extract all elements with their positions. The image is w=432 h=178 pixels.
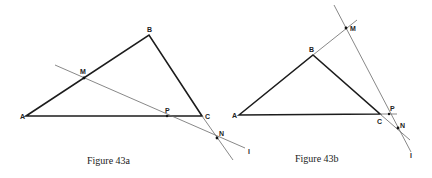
point-p xyxy=(166,115,168,117)
label-l: l xyxy=(248,148,250,155)
figure-43a: A B C M P N l Figure 43a xyxy=(20,26,250,166)
triangle-abc xyxy=(239,55,380,115)
triangle-abc xyxy=(26,35,202,116)
label-a: A xyxy=(20,113,25,120)
label-a: A xyxy=(232,112,237,119)
geometry-diagram: A B C M P N l Figure 43a A B C M P N l F… xyxy=(0,0,432,178)
extension-bc xyxy=(380,114,410,140)
point-m xyxy=(83,77,86,80)
label-n: N xyxy=(219,130,224,137)
label-l: l xyxy=(410,152,412,159)
figure-43b: A B C M P N l Figure 43b xyxy=(232,5,412,164)
point-m xyxy=(345,27,348,30)
caption-43b: Figure 43b xyxy=(295,153,339,164)
label-b: B xyxy=(147,26,152,33)
label-p: P xyxy=(165,107,170,114)
point-n xyxy=(397,127,400,130)
label-p: P xyxy=(390,105,395,112)
point-p xyxy=(388,113,390,115)
caption-43a: Figure 43a xyxy=(87,155,131,166)
label-b: B xyxy=(309,46,314,53)
label-m: M xyxy=(80,68,86,75)
point-n xyxy=(216,137,219,140)
label-n: N xyxy=(400,122,405,129)
label-c: C xyxy=(377,118,382,125)
label-c: C xyxy=(205,113,210,120)
label-m: M xyxy=(350,25,356,32)
